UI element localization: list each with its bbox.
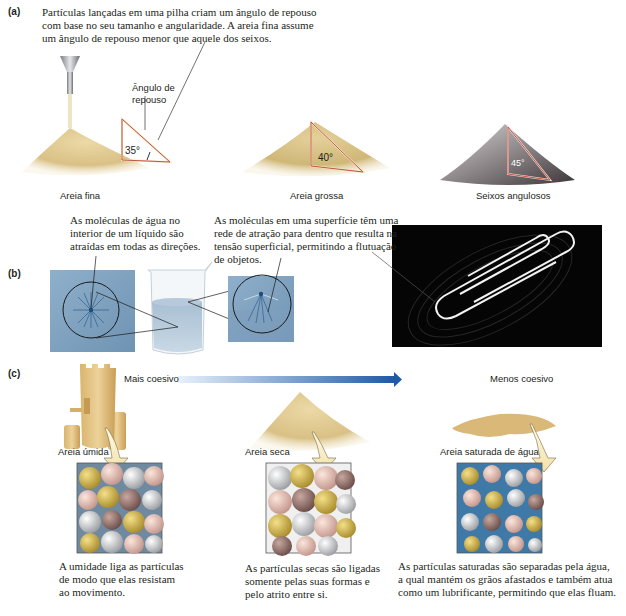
- more-cohesive-label: Mais coesivo: [124, 373, 179, 384]
- figure-graphics: [0, 0, 626, 616]
- caption-line: As moléculas de água no: [70, 214, 200, 227]
- sand-castle-icon: [64, 364, 126, 450]
- state-label-saturated: Areia saturada de água: [440, 446, 539, 457]
- description-line: de modo que elas resistam: [59, 573, 184, 586]
- caption-line: Partículas lançadas em uma pilha criam u…: [42, 6, 317, 19]
- description-line: somente pelas suas formas e: [245, 575, 380, 588]
- cohesion-arrow-shaft: [178, 376, 394, 383]
- state-label-wet: Areia úmida: [58, 446, 109, 457]
- cohesion-arrow-head: [394, 372, 402, 387]
- funnel-icon: [60, 56, 80, 128]
- angle-of-repose-label: Ângulo de repouso: [132, 82, 175, 106]
- less-cohesive-label: Menos coesivo: [490, 373, 553, 384]
- pile-label-coarse: Areia grossa: [290, 190, 343, 201]
- caption-line: rede de atração para dentro que resulta …: [214, 227, 399, 240]
- panel-a-label: (a): [8, 6, 20, 17]
- panel-c-label: (c): [8, 368, 20, 379]
- description-line: As partículas secas são ligadas: [245, 562, 380, 575]
- description-line: ao movimento.: [59, 586, 184, 599]
- angle-label-line: Ângulo de: [132, 82, 175, 94]
- wet-sand-grains-box: [77, 463, 164, 554]
- description-line: a qual mantém os grãos afastados e també…: [398, 573, 616, 586]
- angle-value-fine: 35°: [125, 145, 140, 156]
- caption-line: tensão superficial, permitindo a flutuaç…: [214, 240, 399, 253]
- saturated-sand-grains-box: [457, 463, 544, 553]
- state-description-saturated: As partículas saturadas são separadas pe…: [398, 560, 616, 599]
- caption-line: As moléculas em uma superfície têm uma: [214, 214, 399, 227]
- caption-line: com base no seu tamanho e angularidade. …: [42, 19, 317, 32]
- dry-sand-grains-box: [266, 463, 356, 556]
- description-line: pelo atrito entre si.: [245, 588, 380, 601]
- state-description-wet: A umidade liga as partículas de modo que…: [59, 560, 184, 599]
- dry-sand-pile: [250, 392, 370, 451]
- pile-label-fine: Areia fina: [60, 190, 100, 201]
- caption-line: interior de um líquido são: [70, 227, 200, 240]
- description-line: As partículas saturadas são separadas pe…: [398, 560, 616, 573]
- caption-line: um ângulo de repouso menor que aquele do…: [42, 32, 317, 45]
- saturated-sand-blob: [452, 414, 556, 437]
- caption-line: atraídas em todas as direções.: [70, 240, 200, 253]
- interior-molecules-caption: As moléculas de água no interior de um l…: [70, 214, 200, 253]
- description-line: como um lubrificante, permitindo que ela…: [398, 586, 616, 599]
- description-line: A umidade liga as partículas: [59, 560, 184, 573]
- angle-value-pebbles: 45°: [511, 158, 525, 168]
- surface-molecules-caption: As moléculas em uma superfície têm uma r…: [214, 214, 399, 266]
- state-label-dry: Areia seca: [245, 446, 290, 457]
- angle-label-line: repouso: [132, 94, 175, 106]
- angle-value-coarse: 40°: [318, 152, 333, 163]
- state-description-dry: As partículas secas são ligadas somente …: [245, 562, 380, 601]
- caption-line: de objetos.: [214, 253, 399, 266]
- coarse-sand-pile: [242, 122, 390, 176]
- pile-label-pebbles: Seixos angulosos: [476, 190, 550, 201]
- panel-a-caption: Partículas lançadas em uma pilha criam u…: [42, 6, 317, 45]
- panel-b-label: (b): [8, 268, 21, 279]
